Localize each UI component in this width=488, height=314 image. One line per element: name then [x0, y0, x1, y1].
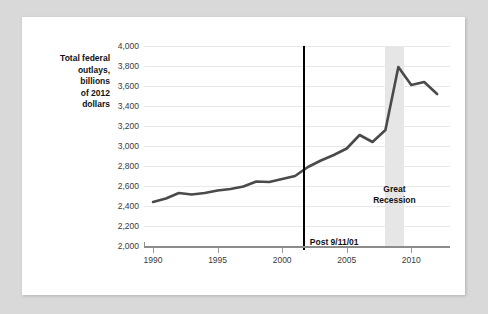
x-tick-mark	[153, 248, 154, 253]
plot-area: 2,0002,2002,4002,6002,8003,0003,2003,400…	[144, 46, 450, 246]
y-tick-label: 2,400	[118, 201, 139, 211]
y-tick-label: 3,800	[118, 61, 139, 71]
x-tick-label: 1995	[208, 255, 227, 265]
y-tick-label: 2,600	[118, 181, 139, 191]
y-tick-label: 3,200	[118, 121, 139, 131]
y-tick-label: 2,200	[118, 221, 139, 231]
x-tick-label: 2000	[273, 255, 292, 265]
y-tick-label: 3,400	[118, 101, 139, 111]
event-label: Post 9/11/01	[310, 237, 359, 247]
x-tick-label: 1990	[144, 255, 163, 265]
series-line-total-federal-outlays	[153, 67, 437, 202]
x-tick-mark	[347, 248, 348, 253]
y-tick-label: 3,600	[118, 81, 139, 91]
y-tick-label: 4,000	[118, 41, 139, 51]
y-axis-stub	[144, 242, 145, 247]
data-series-line	[144, 46, 450, 246]
x-tick-mark	[218, 248, 219, 253]
x-tick-mark	[282, 248, 283, 253]
y-tick-label: 2,000	[118, 241, 139, 251]
recession-label: Great Recession	[373, 184, 416, 206]
y-axis-title: Total federal outlays, billions of 2012 …	[32, 53, 110, 111]
x-tick-label: 2010	[402, 255, 421, 265]
event-vertical-line	[303, 46, 306, 250]
y-tick-label: 2,800	[118, 161, 139, 171]
x-axis-line	[144, 246, 450, 248]
x-tick-label: 2005	[337, 255, 356, 265]
x-tick-mark	[411, 248, 412, 253]
figure-card: Total federal outlays, billions of 2012 …	[22, 17, 465, 295]
y-tick-label: 3,000	[118, 141, 139, 151]
